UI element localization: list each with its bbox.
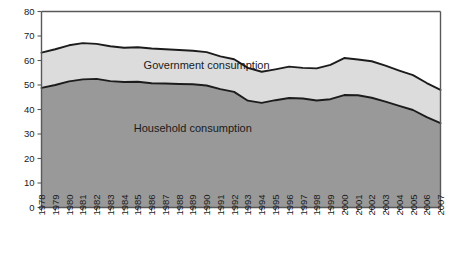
x-axis-tick-label: 1983 [105, 194, 116, 215]
x-axis-tick-label: 1998 [311, 194, 322, 215]
x-axis-tick-label: 1978 [36, 194, 47, 215]
x-axis-tick-label: 1991 [215, 194, 226, 215]
x-axis-tick-label: 1984 [119, 194, 130, 215]
x-axis-tick-label: 2007 [435, 194, 446, 215]
x-axis-tick-label: 1995 [270, 194, 281, 215]
x-axis-tick-label: 2001 [353, 194, 364, 215]
x-axis-tick-label: 1992 [229, 194, 240, 215]
x-axis-tick-label: 1979 [50, 194, 61, 215]
x-axis-tick-label: 1988 [174, 194, 185, 215]
y-axis-tick-label: 80 [24, 6, 35, 17]
x-axis-tick-label: 1985 [132, 194, 143, 215]
x-axis-tick-label: 1981 [77, 194, 88, 215]
y-axis-tick-label: 30 [24, 128, 35, 139]
x-axis-tick-label: 1980 [64, 194, 75, 215]
x-axis-tick-label: 1993 [242, 194, 253, 215]
x-axis-tick-label: 2004 [394, 194, 405, 215]
x-axis-tick-label: 1982 [91, 194, 102, 215]
y-axis-tick-label: 10 [24, 177, 35, 188]
y-axis-tick-label: 40 [24, 104, 35, 115]
x-axis-tick-label: 1990 [201, 194, 212, 215]
x-axis-tick-label: 2005 [408, 194, 419, 215]
y-axis-tick-labels: 01020304050607080 [24, 6, 35, 213]
series-annotation-label: Household consumption [134, 122, 252, 134]
y-axis-tick-label: 20 [24, 153, 35, 164]
y-axis-tick-label: 50 [24, 79, 35, 90]
x-axis-tick-label: 1986 [146, 194, 157, 215]
x-axis-tick-label: 2006 [421, 194, 432, 215]
stacked-area-chart: 01020304050607080 1978197919801981198219… [0, 0, 457, 268]
chart-canvas: 01020304050607080 1978197919801981198219… [0, 0, 457, 268]
x-axis-tick-label: 2003 [380, 194, 391, 215]
y-axis-tick-label: 60 [24, 55, 35, 66]
x-axis-tick-label: 2000 [339, 194, 350, 215]
y-axis-tick-label: 70 [24, 30, 35, 41]
x-axis-tick-label: 1999 [325, 194, 336, 215]
series-annotation-label: Government consumption [144, 59, 270, 71]
y-axis-tick-label: 0 [29, 202, 34, 213]
x-axis-tick-label: 1994 [256, 194, 267, 215]
x-axis-tick-label: 2002 [366, 194, 377, 215]
x-axis-tick-label: 1996 [284, 194, 295, 215]
x-axis-tick-label: 1987 [160, 194, 171, 215]
x-axis-tick-label: 1989 [187, 194, 198, 215]
x-axis-tick-label: 1997 [298, 194, 309, 215]
